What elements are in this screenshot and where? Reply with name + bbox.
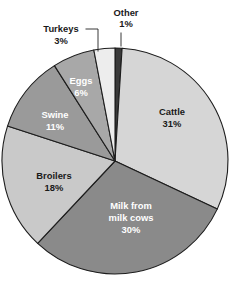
slice-label-broilers-line2: 18% bbox=[45, 182, 64, 193]
slice-label-milk-from-milk-cows-line3: 30% bbox=[122, 224, 141, 235]
pie-chart-figure: Other1%Cattle31%Milk frommilk cows30%Bro… bbox=[0, 0, 237, 286]
slice-label-swine-name: Swine bbox=[41, 109, 68, 120]
leader-line-turkeys bbox=[86, 29, 98, 51]
pie-chart-svg: Other1%Cattle31%Milk frommilk cows30%Bro… bbox=[0, 0, 237, 286]
slice-label-other-name: Other bbox=[113, 7, 138, 18]
slice-label-other-line2: 1% bbox=[119, 18, 133, 29]
slice-label-swine-line2: 11% bbox=[46, 121, 65, 132]
slice-label-cattle-name: Cattle bbox=[159, 106, 185, 117]
slice-label-turkeys-line2: 3% bbox=[54, 35, 68, 46]
slice-label-eggs-name: Eggs bbox=[70, 75, 93, 86]
slice-label-milk-from-milk-cows-line2: milk cows bbox=[109, 212, 154, 223]
pie-slices-group bbox=[2, 48, 228, 274]
slice-label-eggs-line2: 6% bbox=[74, 87, 88, 98]
slice-label-milk-from-milk-cows-name: Milk from bbox=[110, 200, 152, 211]
slice-label-broilers-name: Broilers bbox=[36, 170, 71, 181]
slice-label-turkeys-name: Turkeys bbox=[43, 23, 78, 34]
slice-label-cattle-line2: 31% bbox=[163, 118, 182, 129]
